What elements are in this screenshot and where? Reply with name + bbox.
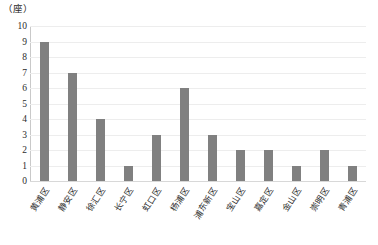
- y-axis-tick-label: 3: [3, 130, 27, 140]
- y-axis-tick-label: 2: [3, 145, 27, 155]
- y-axis-tick-label: 1: [3, 161, 27, 171]
- plot-area: [30, 26, 366, 181]
- bar: [180, 88, 189, 181]
- y-axis-tick-label: 8: [3, 52, 27, 62]
- bar: [236, 150, 245, 181]
- bar: [152, 135, 161, 182]
- bar-series: [30, 26, 366, 181]
- y-axis-tick-label: 9: [3, 37, 27, 47]
- x-axis-tick-labels: 黄浦区静安区徐汇区长宁区虹口区杨浦区浦东新区宝山区嘉定区金山区崇明区青浦区: [30, 182, 366, 234]
- bar: [264, 150, 273, 181]
- y-axis-tick-label: 6: [3, 83, 27, 93]
- y-axis-tick-labels: 109876543210: [0, 26, 27, 182]
- bar-chart: （座） 109876543210 黄浦区静安区徐汇区长宁区虹口区杨浦区浦东新区宝…: [0, 0, 378, 245]
- y-axis-tick-label: 7: [3, 68, 27, 78]
- y-axis-tick-label: 4: [3, 114, 27, 124]
- y-axis-tick-label: 10: [3, 21, 27, 31]
- bar: [40, 42, 49, 182]
- bar: [320, 150, 329, 181]
- bar: [208, 135, 217, 182]
- y-axis-tick-label: 5: [3, 99, 27, 109]
- bar: [96, 119, 105, 181]
- bar: [292, 166, 301, 182]
- bar: [124, 166, 133, 182]
- y-axis-unit-label: （座）: [3, 4, 33, 15]
- bar: [348, 166, 357, 182]
- y-axis-tick-label: 0: [3, 176, 27, 186]
- bar: [68, 73, 77, 182]
